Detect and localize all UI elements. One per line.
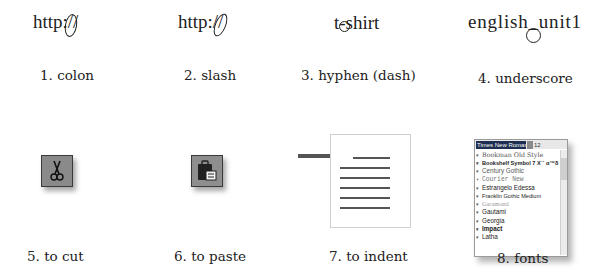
underscore-example: english_unit1	[468, 11, 582, 33]
caption-paste: 6. to paste	[174, 248, 246, 264]
font-option[interactable]: ▾Bookman Old Style	[476, 151, 560, 159]
font-option[interactable]: ▾Bookshelf Symbol 7 Χ˙´ α™δ †	[476, 159, 560, 167]
text-line	[340, 207, 390, 209]
caption-cut: 5. to cut	[27, 248, 84, 264]
scissors-icon	[42, 156, 72, 186]
caption-hyphen: 3. hyphen (dash)	[301, 67, 416, 83]
font-option[interactable]: ▾Impact	[476, 225, 560, 233]
text-line	[340, 187, 390, 189]
caption-colon: 1. colon	[40, 67, 94, 83]
caption-underscore: 4. underscore	[478, 70, 573, 86]
highlight-circle	[526, 28, 541, 43]
text-line	[340, 167, 390, 169]
example-text-part: english	[468, 11, 529, 32]
indent-document-icon	[330, 134, 411, 228]
chevron-down-icon[interactable]	[527, 141, 533, 149]
font-option[interactable]: ▾Latha	[476, 233, 560, 241]
example-text-part: http	[33, 11, 63, 32]
font-option[interactable]: ▾Garamond	[476, 200, 560, 208]
paste-button[interactable]	[191, 155, 223, 187]
font-option[interactable]: ▾Century Gothic	[476, 167, 560, 175]
font-option[interactable]: ▾Franklin Gothic Medium	[476, 192, 560, 200]
example-text-part: shirt	[346, 12, 380, 33]
font-option[interactable]: ▾Estrangelo Edessa	[476, 184, 560, 192]
font-list: ▾Bookman Old Style ▾Bookshelf Symbol 7 Χ…	[476, 151, 560, 241]
font-option[interactable]: ▾Gautami	[476, 208, 560, 216]
highlight-circle	[339, 21, 350, 32]
example-text-part: unit1	[539, 11, 582, 32]
font-size-field[interactable]: 12	[534, 141, 556, 149]
caption-indent: 7. to indent	[329, 248, 408, 264]
text-line	[340, 197, 390, 199]
clipboard-paste-icon	[192, 156, 222, 186]
font-list-scrollbar[interactable]	[560, 150, 567, 255]
font-dropdown[interactable]: Times New Roman 12 ▾Bookman Old Style ▾B…	[474, 139, 568, 257]
cut-button[interactable]	[41, 155, 73, 187]
caption-fonts: 8. fonts	[497, 250, 548, 266]
text-line	[340, 177, 390, 179]
font-name-field[interactable]: Times New Roman	[476, 141, 526, 149]
indented-line	[353, 157, 390, 159]
font-option[interactable]: ▾Georgia	[476, 217, 560, 225]
font-option[interactable]: ▾Courier New	[476, 176, 560, 184]
scrollbar-thumb[interactable]	[561, 158, 567, 180]
example-text-part: http:	[178, 11, 213, 32]
caption-slash: 2. slash	[184, 67, 236, 83]
